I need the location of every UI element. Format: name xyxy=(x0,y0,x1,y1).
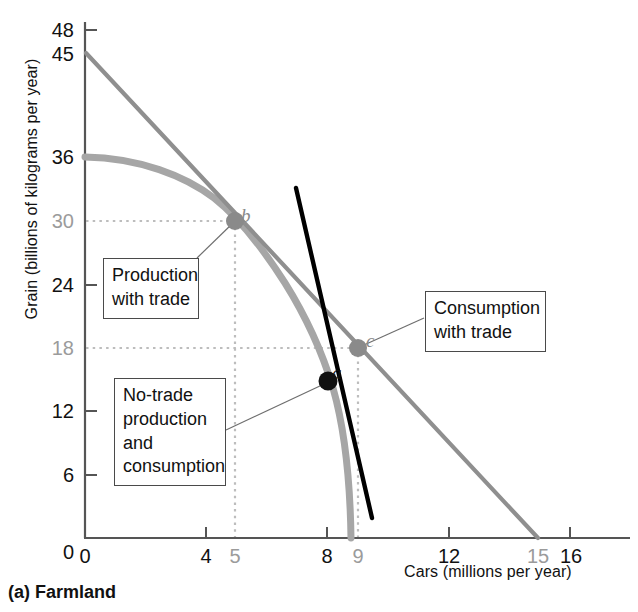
point-label-a: a xyxy=(332,362,342,384)
x-tick-label-9: 9 xyxy=(338,546,378,566)
point-label-b: b xyxy=(241,205,251,227)
x-tick-label-0: 0 xyxy=(65,546,105,566)
y-tick-label-48: 48 xyxy=(28,20,74,40)
y-tick-marks xyxy=(85,30,97,475)
point-label-c: c xyxy=(366,330,374,352)
callout-consumption-with-trade: Consumption with trade xyxy=(425,291,546,352)
ppf-trade-figure: 48 45 36 30 24 18 12 6 0 0 4 5 8 9 12 15… xyxy=(0,0,638,612)
x-axis-title: Cars (millions per year) xyxy=(404,563,572,581)
x-tick-label-5: 5 xyxy=(215,546,255,566)
callout-no-trade-production-consumption: No-trade production and consumption xyxy=(114,378,226,486)
callout-production-with-trade: Production with trade xyxy=(103,258,199,319)
figure-caption: (a) Farmland xyxy=(8,582,116,603)
x-tick-marks xyxy=(206,527,570,538)
data-point-c[interactable] xyxy=(349,339,367,357)
y-tick-label-6: 6 xyxy=(28,465,74,485)
y-tick-label-12: 12 xyxy=(28,401,74,421)
y-axis-title: Grain (billions of kilograms per year) xyxy=(23,39,41,339)
y-tick-label-18: 18 xyxy=(28,338,74,358)
